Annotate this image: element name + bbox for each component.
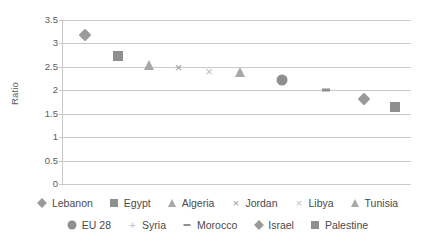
- marker-x-light: ×: [296, 198, 302, 209]
- legend-label: Lebanon: [52, 197, 93, 209]
- y-axis-tick-label: 2.5: [22, 62, 58, 72]
- y-axis-tick-mark: [59, 114, 63, 115]
- legend-swatch-x-light-icon: ×: [293, 198, 304, 209]
- legend-row-1: LebanonEgyptAlgeria×Jordan×LibyaTunisia: [0, 192, 435, 214]
- marker-triangle: [144, 60, 154, 70]
- y-axis-tick-label: 1.5: [22, 109, 58, 119]
- gridline: [63, 90, 411, 91]
- legend-item-eu-28[interactable]: EU 28: [67, 219, 111, 231]
- marker-dash: [184, 224, 191, 226]
- gridline: [63, 114, 411, 115]
- legend-item-egypt[interactable]: Egypt: [109, 197, 151, 209]
- marker-x-light: ×: [205, 65, 213, 78]
- y-axis-tick-mark: [59, 67, 63, 68]
- y-axis-tick-label: 3: [22, 38, 58, 48]
- y-axis-tick-mark: [59, 90, 63, 91]
- legend-item-palestine[interactable]: Palestine: [310, 219, 368, 231]
- legend-swatch-triangle-icon: [350, 198, 361, 209]
- marker-square: [390, 102, 400, 112]
- y-axis-tick-label: 1: [22, 132, 58, 142]
- plot-area: ××: [62, 20, 411, 184]
- marker-diamond: [79, 29, 92, 42]
- legend-label: Palestine: [325, 219, 368, 231]
- y-axis-title: Ratio: [9, 64, 20, 124]
- legend-item-algeria[interactable]: Algeria: [167, 197, 215, 209]
- marker-diamond: [254, 220, 264, 230]
- y-axis-tick-mark: [59, 137, 63, 138]
- legend-swatch-circle-icon: [67, 220, 78, 231]
- y-axis-tick-label: 0: [22, 179, 58, 189]
- y-axis-tick-label: 0.5: [22, 156, 58, 166]
- legend-swatch-x-icon: ×: [230, 198, 241, 209]
- legend-label: Algeria: [182, 197, 215, 209]
- marker-x: ×: [175, 61, 183, 74]
- legend-label: Libya: [308, 197, 333, 209]
- gridline: [63, 161, 411, 162]
- y-axis-tick-label: 3.5: [22, 15, 58, 25]
- legend-swatch-dash-icon: [182, 220, 193, 231]
- gridline: [63, 43, 411, 44]
- legend-swatch-diamond-icon: [253, 220, 264, 231]
- marker-triangle: [168, 199, 176, 207]
- legend-label: Jordan: [245, 197, 277, 209]
- legend-label: EU 28: [82, 219, 111, 231]
- legend-item-lebanon[interactable]: Lebanon: [37, 197, 93, 209]
- legend-label: Tunisia: [365, 197, 398, 209]
- legend-item-israel[interactable]: Israel: [253, 219, 294, 231]
- marker-triangle: [235, 67, 245, 77]
- legend-row-2: EU 28+SyriaMoroccoIsraelPalestine: [0, 214, 435, 236]
- y-axis-tick-labels: 3.532.521.510.50: [22, 14, 58, 184]
- legend-swatch-triangle-icon: [167, 198, 178, 209]
- marker-triangle: [351, 199, 359, 207]
- marker-circle: [277, 74, 288, 85]
- y-axis-tick-mark: [59, 184, 63, 185]
- marker-square: [311, 221, 319, 229]
- legend-item-morocco[interactable]: Morocco: [182, 219, 237, 231]
- chart-legend: LebanonEgyptAlgeria×Jordan×LibyaTunisia …: [0, 192, 435, 249]
- y-axis-tick-mark: [59, 43, 63, 44]
- legend-swatch-diamond-icon: [37, 198, 48, 209]
- gridline: [63, 20, 411, 21]
- plot-wrapper: Ratio 3.532.521.510.50 ××: [0, 0, 435, 192]
- legend-item-syria[interactable]: +Syria: [127, 219, 166, 231]
- marker-plus: +: [129, 220, 135, 231]
- legend-label: Morocco: [197, 219, 237, 231]
- marker-diamond: [358, 92, 371, 105]
- marker-circle: [68, 221, 77, 230]
- legend-label: Egypt: [124, 197, 151, 209]
- legend-label: Israel: [268, 219, 294, 231]
- y-axis-tick-label: 2: [22, 85, 58, 95]
- legend-label: Syria: [142, 219, 166, 231]
- marker-square: [110, 199, 118, 207]
- legend-swatch-plus-icon: +: [127, 220, 138, 231]
- legend-swatch-square-icon: [109, 198, 120, 209]
- marker-square: [113, 51, 123, 61]
- legend-item-tunisia[interactable]: Tunisia: [350, 197, 398, 209]
- legend-swatch-square-icon: [310, 220, 321, 231]
- marker-diamond: [37, 198, 47, 208]
- marker-dash: [322, 89, 330, 92]
- legend-item-libya[interactable]: ×Libya: [293, 197, 333, 209]
- legend-item-jordan[interactable]: ×Jordan: [230, 197, 277, 209]
- y-axis-tick-mark: [59, 20, 63, 21]
- ratio-scatter-chart: Ratio 3.532.521.510.50 ×× LebanonEgyptAl…: [0, 0, 435, 249]
- gridline: [63, 137, 411, 138]
- y-axis-tick-mark: [59, 161, 63, 162]
- gridline: [63, 184, 411, 185]
- marker-x: ×: [233, 198, 239, 209]
